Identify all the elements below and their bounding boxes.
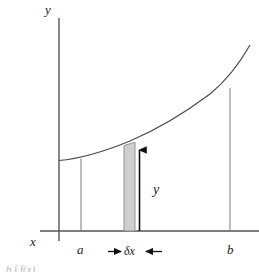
function-curve xyxy=(59,45,250,161)
y-axis-label: y xyxy=(45,3,51,16)
figure-canvas: y x a b y δx b ∫ f(x) xyxy=(0,0,259,272)
upper-limit-label-b: b xyxy=(227,243,234,256)
figure-graphics xyxy=(0,0,259,272)
lower-limit-label-a: a xyxy=(77,243,84,256)
strip-height-label: y xyxy=(153,183,159,197)
elemental-strip xyxy=(124,142,135,231)
cut-off-caption: b ∫ f(x) xyxy=(6,264,256,272)
strip-width-label: δx xyxy=(124,245,135,257)
x-axis-label: x xyxy=(30,235,36,248)
